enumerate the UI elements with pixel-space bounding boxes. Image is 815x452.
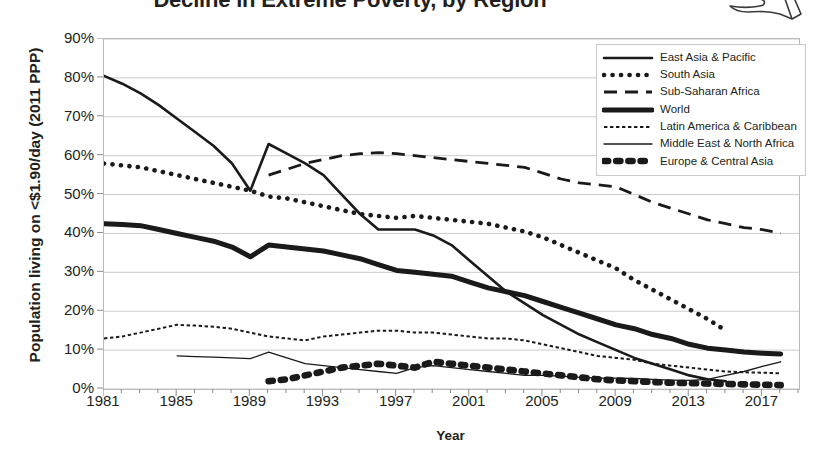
legend-item[interactable]: Sub-Saharan Africa xyxy=(602,84,800,101)
legend-label: World xyxy=(660,104,690,116)
legend-swatch-dotted-round xyxy=(602,68,654,82)
series-line xyxy=(104,163,726,330)
chart-legend: East Asia & PacificSouth AsiaSub-Saharan… xyxy=(596,44,806,176)
x-axis-ticks xyxy=(103,389,800,399)
legend-swatch-dotted-fine xyxy=(602,120,654,134)
y-tick-label: 10% xyxy=(48,341,94,356)
y-axis-ticks xyxy=(96,38,104,390)
chart-figure: Decline in Extreme Poverty, by Region Po… xyxy=(0,0,815,452)
legend-swatch-solid-thin xyxy=(602,137,654,151)
y-tick-label: 90% xyxy=(48,30,94,45)
legend-item[interactable]: South Asia xyxy=(602,66,800,83)
legend-swatch-dotted-bold xyxy=(602,154,654,168)
chart-title: Decline in Extreme Poverty, by Region xyxy=(0,0,700,13)
legend-label: Middle East & North Africa xyxy=(660,138,794,150)
legend-item[interactable]: East Asia & Pacific xyxy=(602,49,800,66)
legend-swatch-dashed-long xyxy=(602,85,654,99)
y-tick-label: 60% xyxy=(48,147,94,162)
legend-label: East Asia & Pacific xyxy=(660,52,756,64)
x-axis-title: Year xyxy=(103,428,798,443)
legend-label: Europe & Central Asia xyxy=(660,156,773,168)
y-tick-label: 40% xyxy=(48,224,94,239)
legend-label: Latin America & Caribbean xyxy=(660,121,797,133)
legend-swatch-solid-thick xyxy=(602,103,654,117)
legend-item[interactable]: Middle East & North Africa xyxy=(602,135,800,152)
y-tick-label: 80% xyxy=(48,69,94,84)
legend-swatch-solid-medium xyxy=(602,51,654,65)
legend-label: Sub-Saharan Africa xyxy=(660,86,760,98)
y-tick-label: 30% xyxy=(48,263,94,278)
series-line xyxy=(104,224,781,354)
legend-item[interactable]: World xyxy=(602,101,800,118)
series-line xyxy=(269,362,781,385)
legend-item[interactable]: Europe & Central Asia xyxy=(602,153,800,170)
giving-hand-icon xyxy=(706,0,806,30)
y-axis-title: Population living on <$1.90/day (2011 PP… xyxy=(26,10,44,400)
y-tick-label: 70% xyxy=(48,108,94,123)
y-tick-label: 20% xyxy=(48,302,94,317)
legend-label: South Asia xyxy=(660,69,715,81)
legend-item[interactable]: Latin America & Caribbean xyxy=(602,118,800,135)
y-tick-label: 50% xyxy=(48,186,94,201)
